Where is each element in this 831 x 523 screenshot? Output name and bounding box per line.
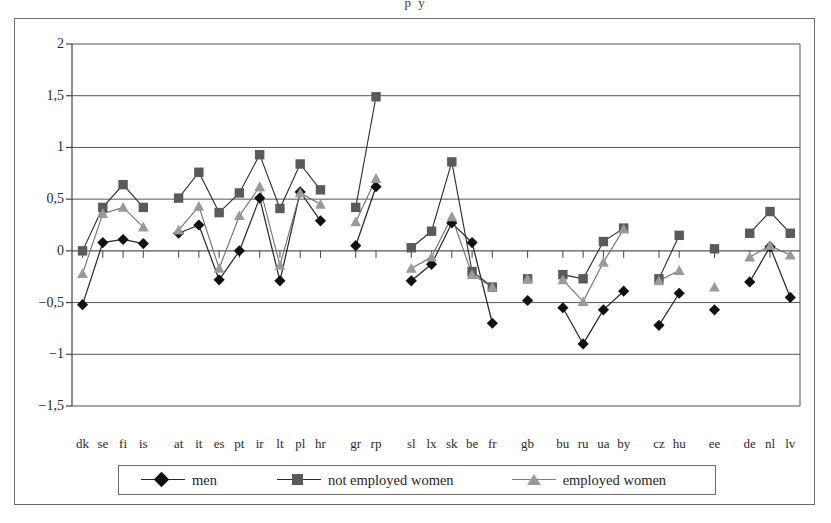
data-point-marker (77, 299, 88, 310)
legend-label-employed-women: employed women (563, 472, 667, 489)
data-point-marker (235, 188, 244, 197)
data-point-marker (446, 211, 457, 221)
data-point-marker (316, 185, 325, 194)
y-axis-line (66, 44, 72, 406)
data-point-marker (138, 238, 149, 249)
data-point-marker (487, 318, 498, 329)
data-point-marker (745, 229, 754, 238)
data-point-marker (193, 219, 204, 230)
data-point-marker (77, 268, 88, 278)
series-line (563, 229, 624, 301)
data-point-marker (315, 199, 326, 209)
data-point-marker (674, 265, 685, 275)
data-point-marker (234, 210, 245, 220)
data-point-marker (407, 243, 416, 252)
data-point-marker (710, 244, 719, 253)
data-point-marker (522, 295, 533, 306)
data-point-marker (97, 237, 108, 248)
data-point-marker (599, 237, 608, 246)
data-point-marker (78, 246, 87, 255)
data-point-marker (255, 150, 264, 159)
data-point-marker (744, 276, 755, 287)
data-point-marker (765, 207, 774, 216)
data-point-marker (785, 292, 796, 303)
data-point-marker (709, 304, 720, 315)
legend-label-not-employed-women: not employed women (328, 472, 454, 489)
data-point-marker (578, 274, 587, 283)
data-point-marker (194, 168, 203, 177)
data-point-marker (234, 245, 245, 256)
data-point-marker (406, 263, 417, 273)
y-axis-tick-label: 0 (24, 243, 64, 259)
legend-marker-diamond-icon (141, 471, 185, 489)
data-point-marker (598, 257, 609, 267)
data-point-marker (139, 203, 148, 212)
data-point-marker (296, 159, 305, 168)
data-point-marker (371, 173, 382, 183)
data-point-marker (118, 202, 129, 212)
series-lines (83, 97, 791, 344)
data-point-marker (674, 288, 685, 299)
y-axis-tick-label: 2 (24, 36, 64, 52)
data-point-marker (350, 216, 361, 226)
gridlines (72, 44, 800, 406)
y-axis-tick-label: −1,5 (24, 398, 64, 414)
chart-svg (14, 18, 815, 505)
data-point-marker (557, 302, 568, 313)
data-point-marker (275, 204, 284, 213)
data-point-marker (350, 240, 361, 251)
y-axis-tick-label: −1 (24, 346, 64, 362)
data-point-marker (744, 252, 755, 262)
legend-item-not-employed-women: not employed women (277, 466, 454, 494)
data-point-marker (193, 201, 204, 211)
plot-area (14, 18, 815, 505)
title-fragment: p y (0, 0, 831, 10)
data-point-marker (653, 320, 664, 331)
y-axis-tick-label: 0,5 (24, 191, 64, 207)
data-point-marker (274, 275, 285, 286)
legend-label-men: men (192, 472, 217, 489)
legend-marker-square-icon (277, 471, 321, 489)
chart-figure: p y dksefiisatitesptirltplhrgrrpsllxskbe… (0, 0, 831, 523)
data-point-marker (786, 229, 795, 238)
data-point-marker (254, 181, 265, 191)
series-line (659, 293, 679, 325)
series-markers (77, 92, 796, 349)
data-point-marker (709, 282, 720, 292)
data-point-marker (117, 234, 128, 245)
data-point-marker (578, 338, 589, 349)
series-line (563, 228, 624, 279)
y-axis-tick-label: 1 (24, 139, 64, 155)
data-point-marker (174, 193, 183, 202)
y-axis-tick-label: 1,5 (24, 88, 64, 104)
y-axis-tick-label: −0,5 (24, 295, 64, 311)
legend-item-men: men (141, 466, 217, 494)
legend-item-employed-women: employed women (512, 466, 667, 494)
data-point-marker (447, 157, 456, 166)
data-point-marker (675, 231, 684, 240)
series-line (356, 97, 376, 208)
data-point-marker (315, 215, 326, 226)
chart-legend: men not employed women employed women (118, 465, 716, 495)
legend-marker-triangle-icon (512, 471, 556, 489)
data-point-marker (118, 180, 127, 189)
data-point-marker (214, 208, 223, 217)
data-point-marker (351, 203, 360, 212)
series-line (83, 239, 144, 304)
data-point-marker (371, 92, 380, 101)
series-line (563, 291, 624, 344)
data-point-marker (214, 274, 225, 285)
data-point-marker (427, 227, 436, 236)
